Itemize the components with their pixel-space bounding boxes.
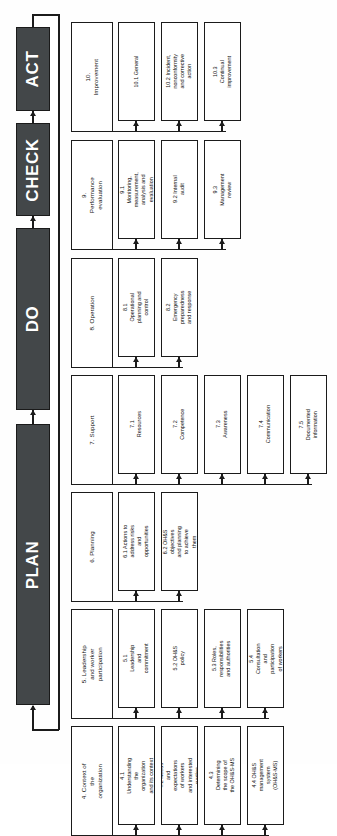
subsection-label-5-1: 5.1 Leadership and commitment xyxy=(122,641,151,676)
section-10-bus xyxy=(71,131,226,133)
phase-label-plan: PLAN xyxy=(23,540,43,589)
subsection-box-9-1[interactable]: 9.1 Monitoring, measurement, analysis an… xyxy=(118,140,155,239)
subsection-arrow-9-2 xyxy=(176,239,182,244)
section-label-9: 9. Performance evaluation xyxy=(80,175,105,215)
section-6-bus xyxy=(71,601,183,603)
subsection-arrow-4-2 xyxy=(176,825,182,830)
subsection-label-6-1: 6.1 Actions to address risks and opportu… xyxy=(122,524,151,559)
phase-label-act: ACT xyxy=(23,51,43,88)
section-box-10-improvement[interactable]: 10. Improvement xyxy=(71,22,113,132)
phase-arrow-plan-do xyxy=(30,410,36,415)
subsection-box-5-1[interactable]: 5.1 Leadership and commitment xyxy=(118,609,155,708)
subsection-label-5-2: 5.2 OH&S policy xyxy=(172,641,186,676)
section-9-bus xyxy=(71,249,226,251)
phase-label-do: DO xyxy=(23,306,43,333)
phase-bar-act: ACT xyxy=(16,27,50,111)
subsection-label-9-2: 9.2 Internal audit xyxy=(172,172,186,207)
subsection-box-7-1[interactable]: 7.1 Resources xyxy=(118,375,155,474)
subsection-arrow-4-3 xyxy=(219,825,225,830)
subsection-arrow-7-2 xyxy=(176,474,182,479)
subsection-box-4-3[interactable]: 4.3 Determining the scope of the OH&S-MS xyxy=(204,726,241,825)
subsection-box-7-4[interactable]: 7.4 Communication xyxy=(247,375,284,474)
phase-bar-check: CHECK xyxy=(16,123,50,216)
subsection-box-4-1[interactable]: 4.1 Understanding the organization and i… xyxy=(118,726,155,825)
subsection-arrow-6-1 xyxy=(133,591,139,596)
subsection-box-6-2[interactable]: 6.2 OH&S objectives and planning to achi… xyxy=(161,492,198,591)
subsection-label-4-2: 4.2 Needs and expectations of workers an… xyxy=(161,758,198,793)
subsection-label-7-3: 7.3 Awareness xyxy=(215,407,229,442)
subsection-label-8-1: 8.1 Operational planning and control xyxy=(122,290,151,325)
phase-label-check: CHECK xyxy=(23,138,43,201)
subsection-box-4-2[interactable]: 4.2 Needs and expectations of workers an… xyxy=(161,726,198,825)
subsection-box-6-1[interactable]: 6.1 Actions to address risks and opportu… xyxy=(118,492,155,591)
section-box-4-context[interactable]: 4. Context of the organization xyxy=(71,726,113,836)
subsection-box-8-2[interactable]: 8.2 Emergency preparedness and response xyxy=(161,258,198,357)
subsection-box-9-2[interactable]: 9.2 Internal audit xyxy=(161,140,198,239)
subsection-arrow-6-2 xyxy=(176,591,182,596)
section-label-6: 6. Planning xyxy=(88,527,96,567)
phase-arrow-check-act xyxy=(30,111,36,116)
subsection-box-7-2[interactable]: 7.2 Competence xyxy=(161,375,198,474)
subsection-arrow-7-1 xyxy=(133,474,139,479)
subsection-label-7-5: 7.5 Documented information xyxy=(298,407,319,442)
section-label-10: 10. Improvement xyxy=(84,57,100,97)
subsection-box-5-2[interactable]: 5.2 OH&S policy xyxy=(161,609,198,708)
subsection-label-7-1: 7.1 Resources xyxy=(129,407,143,442)
subsection-label-10-1: 10.1 General xyxy=(133,54,140,89)
subsection-label-4-3: 4.3 Determining the scope of the OH&S-MS xyxy=(208,758,237,793)
phase-bar-plan: PLAN xyxy=(16,424,50,705)
loop-line-top-horizontal xyxy=(32,14,59,16)
loop-line-top-vertical xyxy=(32,14,34,28)
subsection-box-10-2[interactable]: 10.2 Incident, nonconformity and correct… xyxy=(161,22,198,121)
subsection-box-4-4[interactable]: 4.4 OH&S management system (OH&S-MS) xyxy=(247,726,284,825)
section-box-7-support[interactable]: 7. Support xyxy=(71,375,113,485)
subsection-box-8-1[interactable]: 8.1 Operational planning and control xyxy=(118,258,155,357)
subsection-box-9-3[interactable]: 9.3 Management review xyxy=(204,140,241,239)
loop-line-bottom-horizontal xyxy=(32,729,59,731)
subsection-arrow-10-1 xyxy=(133,121,139,126)
subsection-arrow-8-1 xyxy=(133,357,139,362)
subsection-label-7-2: 7.2 Competence xyxy=(172,407,186,442)
subsection-arrow-9-1 xyxy=(133,239,139,244)
subsection-box-7-5[interactable]: 7.5 Documented information xyxy=(290,375,327,474)
section-label-5: 5. Leadership and worker participation xyxy=(80,644,105,684)
subsection-arrow-10-3 xyxy=(219,121,225,126)
section-7-bus xyxy=(71,484,312,486)
subsection-arrow-4-1 xyxy=(133,825,139,830)
loop-line-right-vertical xyxy=(58,14,60,730)
subsection-arrow-7-4 xyxy=(262,474,268,479)
subsection-box-5-4[interactable]: 5.4 Consultation and participation of wo… xyxy=(247,609,284,708)
section-box-5-leadership[interactable]: 5. Leadership and worker participation xyxy=(71,609,113,719)
section-box-9-performance-evaluation[interactable]: 9. Performance evaluation xyxy=(71,140,113,250)
subsection-box-10-1[interactable]: 10.1 General xyxy=(118,22,155,121)
subsection-label-4-4: 4.4 OH&S management system (OH&S-MS) xyxy=(251,758,280,793)
subsection-label-9-1: 9.1 Monitoring, measurement, analysis an… xyxy=(119,172,155,207)
subsection-label-6-2: 6.2 OH&S objectives and planning to achi… xyxy=(162,524,198,559)
loop-arrow-into-plan xyxy=(30,705,36,710)
subsection-arrow-8-2 xyxy=(176,357,182,362)
phase-bar-do: DO xyxy=(16,228,50,410)
subsection-arrow-7-5 xyxy=(305,474,311,479)
section-label-4: 4. Context of the organization xyxy=(80,761,105,801)
subsection-box-5-3[interactable]: 5.3 Roles, responsibilities and authorit… xyxy=(204,609,241,708)
subsection-arrow-10-2 xyxy=(176,121,182,126)
subsection-label-4-1: 4.1 Understanding the organization and i… xyxy=(119,758,155,794)
subsection-label-10-3: 10.3 Continual improvement xyxy=(212,54,233,89)
subsection-arrow-5-3 xyxy=(219,708,225,713)
subsection-label-5-3: 5.3 Roles, responsibilities and authorit… xyxy=(212,640,233,676)
section-label-8: 8. Operation xyxy=(88,293,96,333)
section-label-7: 7. Support xyxy=(88,410,96,450)
section-8-bus xyxy=(71,367,183,369)
subsection-label-9-3: 9.3 Management review xyxy=(212,172,233,207)
section-box-8-operation[interactable]: 8. Operation xyxy=(71,258,113,368)
subsection-arrow-5-1 xyxy=(133,708,139,713)
subsection-label-10-2: 10.2 Incident, nonconformity and correct… xyxy=(165,54,194,89)
subsection-box-10-3[interactable]: 10.3 Continual improvement xyxy=(204,22,241,121)
subsection-label-7-4: 7.4 Communication xyxy=(258,405,272,443)
section-box-6-planning[interactable]: 6. Planning xyxy=(71,492,113,602)
phase-arrow-do-check xyxy=(30,216,36,221)
subsection-box-7-3[interactable]: 7.3 Awareness xyxy=(204,375,241,474)
subsection-arrow-7-3 xyxy=(219,474,225,479)
subsection-arrow-4-4 xyxy=(262,825,268,830)
